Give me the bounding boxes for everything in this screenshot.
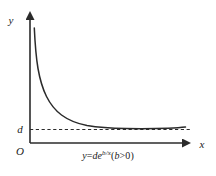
exponential-decay-curve bbox=[34, 28, 185, 129]
caption-exponent: b/x bbox=[102, 149, 111, 157]
y-axis-label: y bbox=[8, 14, 14, 26]
asymptote-value-label: d bbox=[17, 123, 23, 135]
caption-condition-close: ) bbox=[130, 150, 133, 161]
exponential-decay-figure: y x O d y=deb/x(b>0) bbox=[0, 0, 216, 176]
equation-caption: y=deb/x(b>0) bbox=[0, 150, 216, 161]
x-axis-label: x bbox=[199, 138, 205, 150]
